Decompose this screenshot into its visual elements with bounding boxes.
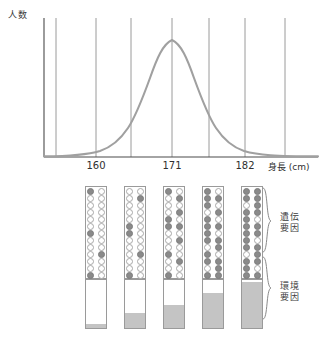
allele-dot-filled bbox=[243, 209, 250, 216]
allele-dot-filled bbox=[215, 195, 222, 202]
environmental-label-line2: 要因 bbox=[280, 292, 299, 303]
genetic-dot-row bbox=[165, 230, 183, 237]
allele-dot-filled bbox=[243, 265, 250, 272]
allele-dot-empty bbox=[126, 258, 133, 265]
allele-dot-filled bbox=[204, 237, 211, 244]
genetic-dot-row bbox=[165, 223, 183, 230]
allele-dot-empty bbox=[137, 244, 144, 251]
genetic-dot-row bbox=[87, 265, 105, 272]
allele-dot-empty bbox=[126, 216, 133, 223]
allele-dot-filled bbox=[204, 272, 211, 279]
genetic-brace bbox=[263, 188, 271, 252]
allele-dot-empty bbox=[176, 265, 183, 272]
allele-dot-empty bbox=[137, 188, 144, 195]
allele-dot-filled bbox=[243, 223, 250, 230]
allele-dot-empty bbox=[204, 265, 211, 272]
allele-dot-filled bbox=[87, 272, 94, 279]
allele-dot-empty bbox=[137, 237, 144, 244]
genetic-dot-row bbox=[243, 272, 261, 279]
genetic-column-4 bbox=[202, 186, 224, 279]
allele-dot-filled bbox=[165, 223, 172, 230]
allele-dot-empty bbox=[176, 251, 183, 258]
allele-dot-empty bbox=[126, 244, 133, 251]
allele-dot-empty bbox=[165, 202, 172, 209]
genetic-dot-grid bbox=[203, 187, 223, 278]
allele-dot-empty bbox=[176, 188, 183, 195]
genetic-dot-row bbox=[87, 223, 105, 230]
genetic-dot-row bbox=[165, 216, 183, 223]
genetic-dot-row bbox=[87, 195, 105, 202]
genetic-dot-row bbox=[243, 230, 261, 237]
genetic-dot-row bbox=[87, 202, 105, 209]
genetic-dot-row bbox=[165, 202, 183, 209]
allele-dot-empty bbox=[87, 195, 94, 202]
allele-dot-empty bbox=[204, 244, 211, 251]
genetic-dot-row bbox=[165, 265, 183, 272]
allele-dot-empty bbox=[243, 251, 250, 258]
allele-dot-filled bbox=[126, 223, 133, 230]
allele-dot-empty bbox=[98, 209, 105, 216]
genetic-label-line1: 遺伝 bbox=[280, 212, 299, 223]
allele-dot-empty bbox=[87, 209, 94, 216]
allele-dot-empty bbox=[126, 188, 133, 195]
genetic-dot-row bbox=[204, 237, 222, 244]
environmental-column-1 bbox=[85, 279, 107, 329]
allele-dot-empty bbox=[126, 251, 133, 258]
genetic-dot-row bbox=[126, 258, 144, 265]
allele-dot-filled bbox=[254, 195, 261, 202]
allele-dot-empty bbox=[254, 265, 261, 272]
genetic-dot-row bbox=[87, 237, 105, 244]
allele-dot-empty bbox=[137, 202, 144, 209]
genetic-dot-row bbox=[165, 244, 183, 251]
allele-dot-empty bbox=[87, 244, 94, 251]
allele-dot-empty bbox=[137, 258, 144, 265]
allele-dot-empty bbox=[137, 209, 144, 216]
allele-dot-filled bbox=[215, 265, 222, 272]
allele-dot-filled bbox=[215, 237, 222, 244]
genetic-dot-row bbox=[126, 244, 144, 251]
allele-dot-empty bbox=[87, 237, 94, 244]
genetic-dot-row bbox=[165, 195, 183, 202]
allele-dot-empty bbox=[176, 244, 183, 251]
genetic-dot-grid bbox=[125, 187, 145, 278]
allele-dot-filled bbox=[204, 195, 211, 202]
allele-dot-empty bbox=[98, 272, 105, 279]
allele-dot-empty bbox=[126, 265, 133, 272]
genetic-dot-row bbox=[87, 216, 105, 223]
allele-dot-filled bbox=[254, 209, 261, 216]
genetic-dot-row bbox=[204, 258, 222, 265]
allele-dot-filled bbox=[243, 230, 250, 237]
genetic-column-1 bbox=[85, 186, 107, 279]
allele-dot-empty bbox=[165, 237, 172, 244]
genetic-dot-row bbox=[243, 258, 261, 265]
allele-dot-empty bbox=[215, 251, 222, 258]
genetic-dot-row bbox=[126, 223, 144, 230]
allele-dot-empty bbox=[165, 209, 172, 216]
allele-dot-filled bbox=[254, 251, 261, 258]
allele-dot-empty bbox=[98, 216, 105, 223]
environmental-factor-label: 環境 要因 bbox=[280, 281, 299, 303]
allele-dot-filled bbox=[204, 230, 211, 237]
genetic-dot-row bbox=[87, 209, 105, 216]
allele-dot-empty bbox=[204, 209, 211, 216]
allele-dot-filled bbox=[165, 188, 172, 195]
allele-dot-empty bbox=[215, 188, 222, 195]
allele-dot-empty bbox=[126, 237, 133, 244]
allele-dot-filled bbox=[243, 258, 250, 265]
genetic-dot-row bbox=[165, 258, 183, 265]
allele-dot-filled bbox=[204, 223, 211, 230]
genetic-dot-row bbox=[204, 244, 222, 251]
allele-dot-filled bbox=[137, 195, 144, 202]
genetic-dot-row bbox=[165, 209, 183, 216]
allele-dot-filled bbox=[165, 251, 172, 258]
allele-dot-empty bbox=[176, 202, 183, 209]
allele-dot-empty bbox=[126, 202, 133, 209]
allele-dot-empty bbox=[254, 237, 261, 244]
genetic-dot-row bbox=[243, 202, 261, 209]
allele-dot-filled bbox=[204, 216, 211, 223]
allele-dot-empty bbox=[176, 216, 183, 223]
environmental-brace bbox=[263, 257, 271, 319]
allele-dot-filled bbox=[176, 223, 183, 230]
environmental-column-2 bbox=[124, 279, 146, 329]
genetic-dot-row bbox=[87, 251, 105, 258]
